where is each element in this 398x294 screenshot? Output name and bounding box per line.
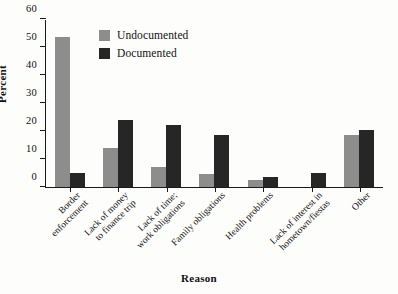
y-tick-label: 40 (26, 59, 37, 70)
bar-undocumented (151, 167, 166, 187)
bar-group (344, 20, 374, 187)
y-axis-title: Percent (0, 65, 8, 103)
bar-group (55, 20, 85, 187)
legend-item: Undocumented (99, 26, 188, 44)
legend-swatch (99, 30, 110, 41)
bar-undocumented (248, 180, 263, 187)
legend-label: Documented (117, 47, 177, 59)
bar-groups (46, 20, 383, 187)
bar-documented (70, 173, 85, 187)
y-tick-label: 60 (26, 3, 37, 14)
y-tick-mark (40, 18, 46, 19)
x-tick-label: Lack of interest inhometown/fiestas (267, 190, 331, 254)
bar-documented (311, 173, 326, 187)
x-tick-label: Health problems (224, 190, 276, 242)
bar-documented (359, 130, 374, 187)
chart-legend: UndocumentedDocumented (99, 26, 188, 62)
bar-documented (118, 120, 133, 187)
y-tick-label: 50 (26, 31, 37, 42)
bar-documented (214, 135, 229, 187)
y-tick-label: 10 (26, 143, 37, 154)
x-tick-label: Other (350, 190, 373, 213)
y-tick-label: 20 (26, 115, 37, 126)
legend-item: Documented (99, 44, 188, 62)
y-tick-label: 30 (26, 87, 37, 98)
bar-group (248, 20, 278, 187)
bar-documented (263, 177, 278, 187)
x-axis-labels: BorderenforcementLack of moneyto finance… (45, 190, 383, 260)
y-tick-label: 0 (32, 171, 37, 182)
bar-group (199, 20, 229, 187)
bar-undocumented (55, 37, 70, 187)
bar-undocumented (103, 148, 118, 187)
bar-group (296, 20, 326, 187)
plot-area: 0102030405060 (45, 20, 383, 188)
bar-undocumented (344, 135, 359, 187)
x-axis-title: Reason (0, 272, 398, 284)
bar-chart: Percent 0102030405060 BorderenforcementL… (0, 0, 398, 294)
bar-documented (166, 125, 181, 187)
bar-undocumented (199, 174, 214, 187)
legend-swatch (99, 48, 110, 59)
legend-label: Undocumented (117, 29, 188, 41)
